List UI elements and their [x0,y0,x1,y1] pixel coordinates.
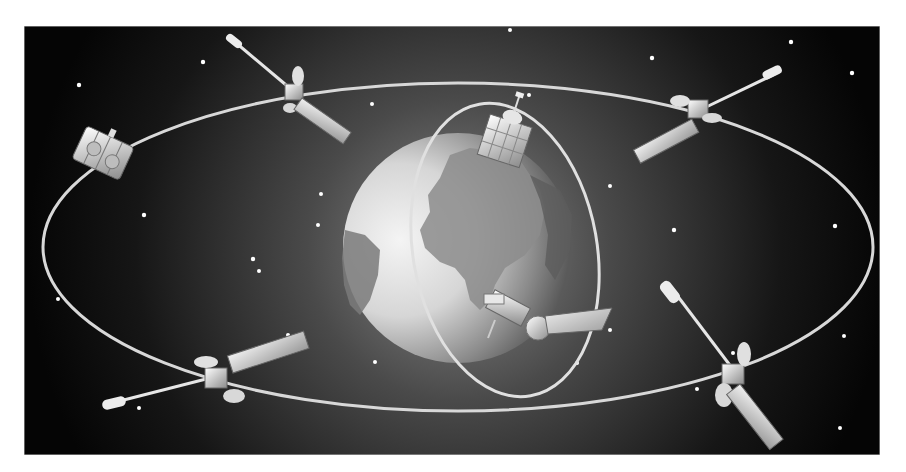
satellite-illustration [24,26,880,455]
